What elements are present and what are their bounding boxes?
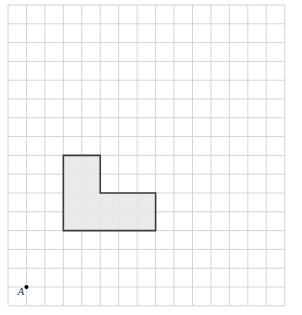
- grid-diagram: [0, 0, 302, 315]
- point-a-label: A: [17, 285, 24, 297]
- point-a-dot: [24, 285, 28, 289]
- l-shape-polygon: [63, 155, 155, 230]
- grid-lines: [8, 5, 285, 306]
